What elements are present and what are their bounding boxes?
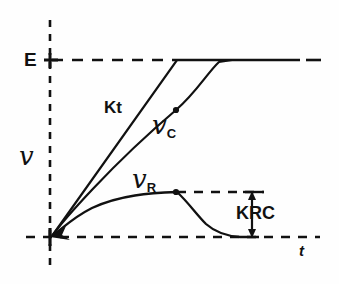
y-axis-label-glyph: v xyxy=(19,141,34,171)
y-axis-label: v xyxy=(19,140,34,170)
vr-label-base: v xyxy=(132,164,147,194)
x-axis-label: t xyxy=(299,243,304,258)
axes-group xyxy=(26,20,320,268)
figure-canvas xyxy=(0,0,339,284)
vr-curve-label: vR xyxy=(132,166,156,194)
vr-label-subscript: R xyxy=(147,180,156,195)
kt-ramp-label: Kt xyxy=(104,99,122,116)
vc-curve-label: vC xyxy=(152,112,176,140)
figure-root: E v Kt vC vR KRC t xyxy=(0,0,339,284)
vr-curve-marker xyxy=(173,189,179,195)
krc-annotation-label: KRC xyxy=(236,204,275,222)
vc-label-subscript: C xyxy=(167,126,176,141)
vc-label-base: v xyxy=(152,110,167,140)
e-level-label: E xyxy=(24,50,37,69)
